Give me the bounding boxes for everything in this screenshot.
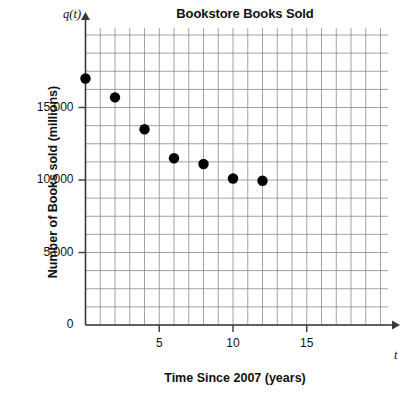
scatter-plot <box>0 0 412 399</box>
data-point <box>169 153 179 163</box>
data-point <box>228 173 238 183</box>
x-axis-arrowhead <box>392 321 400 330</box>
y-tick-label: 15,000 <box>14 100 74 114</box>
x-tick-label: 10 <box>218 336 248 350</box>
data-point <box>257 176 267 186</box>
x-tick-label: 5 <box>144 336 174 350</box>
x-tick-label: 15 <box>292 336 322 350</box>
y-axis-arrowhead <box>81 12 90 20</box>
y-tick-label: 0 <box>14 317 74 331</box>
data-point <box>80 73 90 83</box>
chart-figure: Bookstore Books Sold q(t) t Number of Bo… <box>0 0 412 399</box>
data-point <box>198 159 208 169</box>
axis-lines <box>81 12 400 330</box>
y-tick-label: 10,000 <box>14 172 74 186</box>
y-tick-label: 5,000 <box>14 245 74 259</box>
data-point <box>139 124 149 134</box>
axis-ticks <box>79 108 307 333</box>
data-point <box>110 92 120 102</box>
